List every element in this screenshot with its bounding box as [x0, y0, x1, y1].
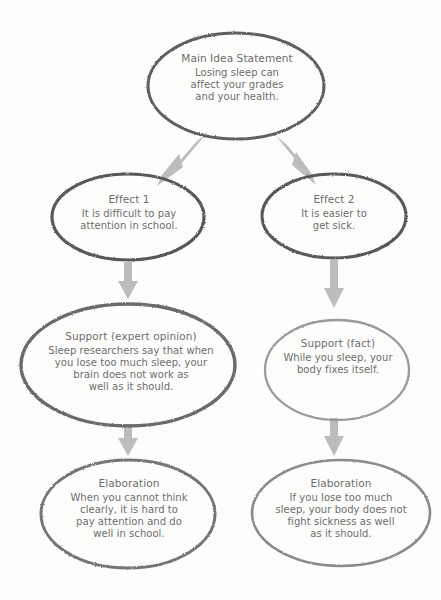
- node-shape-effect-2[interactable]: [262, 174, 406, 258]
- node-shape-elaboration-2[interactable]: [252, 460, 430, 566]
- arrow-support-1-to-elaboration-1: [118, 424, 138, 456]
- arrow-effect-1-to-support-1: [118, 262, 138, 299]
- connector-layer: [118, 134, 344, 456]
- node-shape-main-idea[interactable]: [148, 33, 324, 139]
- node-shape-effect-1[interactable]: [52, 174, 204, 260]
- arrow-support-2-to-elaboration-2: [324, 418, 344, 456]
- node-shape-support-1[interactable]: [21, 304, 235, 426]
- node-shape-elaboration-1[interactable]: [41, 460, 215, 568]
- flowchart-graphics: [0, 0, 441, 600]
- node-shape-support-2[interactable]: [265, 320, 409, 420]
- arrow-effect-2-to-support-2: [324, 260, 344, 308]
- flowchart-canvas: Main Idea Statement Losing sleep can aff…: [0, 0, 441, 600]
